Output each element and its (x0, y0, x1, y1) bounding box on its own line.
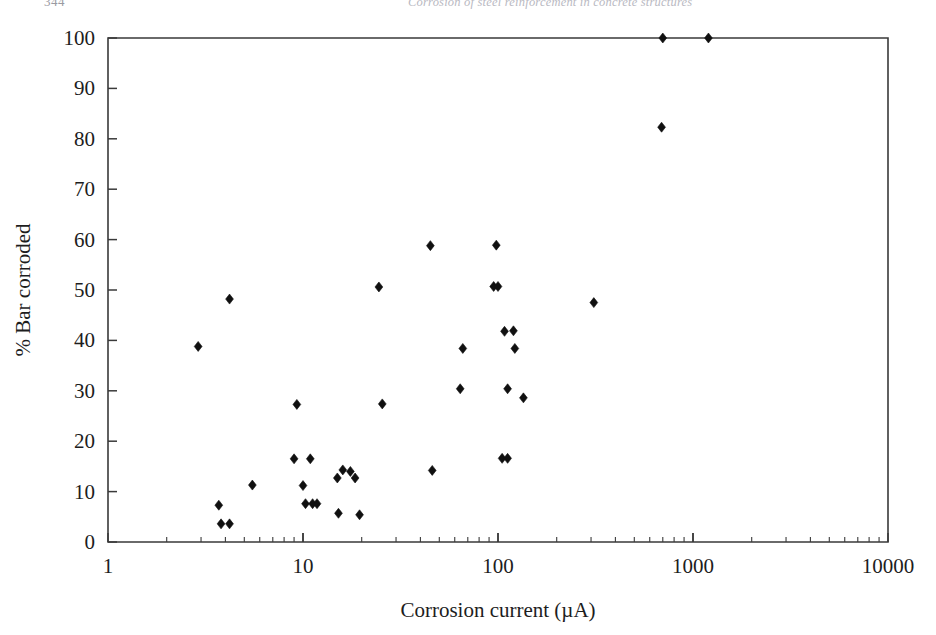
data-point (217, 519, 225, 529)
y-tick-label: 10 (74, 480, 95, 504)
x-tick-label: 1 (103, 554, 114, 578)
data-point (494, 281, 502, 291)
y-tick-label: 90 (74, 76, 95, 100)
x-axis-title: Corrosion current (µA) (400, 598, 595, 622)
data-point (194, 341, 202, 351)
data-point (504, 453, 512, 463)
data-point (299, 481, 307, 491)
y-tick-label: 70 (74, 177, 95, 201)
data-point (293, 399, 301, 409)
data-point (335, 508, 343, 518)
x-tick-label: 10 (293, 554, 314, 578)
data-point (248, 480, 256, 490)
data-point (306, 454, 314, 464)
x-axis-tick-labels: 110100100010000 (103, 554, 915, 578)
scatter-chart-figure: 110100100010000 0102030405060708090100 C… (0, 0, 936, 635)
x-tick-label: 100 (482, 554, 514, 578)
data-point (356, 510, 364, 520)
y-tick-label: 80 (74, 127, 95, 151)
y-tick-label: 20 (74, 429, 95, 453)
data-point (226, 294, 234, 304)
data-point (501, 326, 509, 336)
data-point (658, 122, 666, 132)
data-point (313, 499, 321, 509)
x-tick-label: 10000 (862, 554, 915, 578)
y-tick-label: 100 (64, 26, 96, 50)
data-point (226, 519, 234, 529)
data-point (346, 466, 354, 476)
data-point (511, 343, 519, 353)
data-point (492, 240, 500, 250)
data-point (351, 473, 359, 483)
data-point (590, 298, 598, 308)
data-point (428, 465, 436, 475)
data-point (339, 465, 347, 475)
y-tick-label: 50 (74, 278, 95, 302)
data-point (520, 393, 528, 403)
data-point (659, 33, 667, 43)
data-point-group (194, 33, 712, 529)
data-point (705, 33, 713, 43)
data-point (302, 499, 310, 509)
y-tick-label: 60 (74, 228, 95, 252)
y-tick-label: 40 (74, 328, 95, 352)
data-point (510, 326, 518, 336)
y-tick-label: 0 (85, 530, 96, 554)
data-point (215, 500, 223, 510)
data-point (375, 282, 383, 292)
y-axis-tick-labels: 0102030405060708090100 (64, 26, 96, 554)
data-point (504, 384, 512, 394)
plot-svg: 110100100010000 0102030405060708090100 C… (0, 0, 936, 635)
data-point (426, 241, 434, 251)
data-point (378, 399, 386, 409)
data-point (456, 384, 464, 394)
y-axis-title: % Bar corroded (11, 223, 35, 356)
data-point (459, 343, 467, 353)
data-point (333, 473, 341, 483)
y-tick-label: 30 (74, 379, 95, 403)
data-point (290, 454, 298, 464)
x-tick-label: 1000 (672, 554, 714, 578)
x-axis-ticks (108, 533, 888, 542)
y-axis-ticks (108, 38, 117, 542)
